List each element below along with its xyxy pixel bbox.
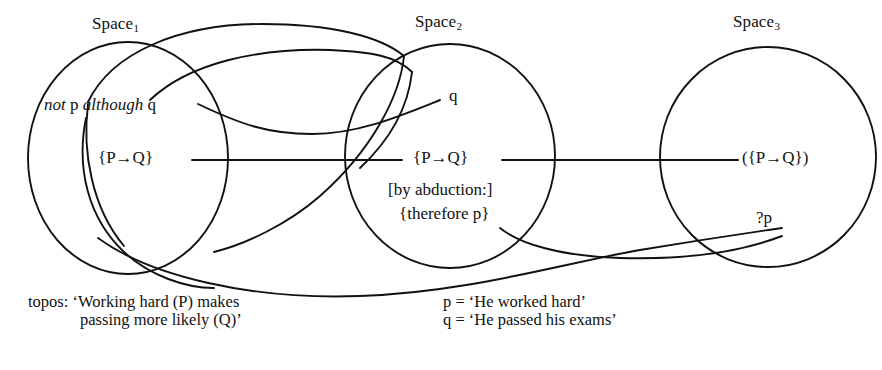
- link-abduction-to-space3: [500, 228, 782, 258]
- space2-label: Space2: [415, 12, 462, 31]
- legend-caption: p = ‘He worked hard’ q = ‘He passed his …: [443, 293, 617, 330]
- space2-q-node: q: [449, 86, 458, 105]
- space1-label: Space1: [92, 14, 139, 33]
- space1-utterance: not p although q: [44, 95, 156, 114]
- figure-canvas: Space1 Space2 Space3 not p although q {P…: [0, 0, 882, 370]
- topos-caption: topos: ‘Working hard (P) makes passing m…: [28, 293, 242, 330]
- connector-lens-left-side: [83, 118, 214, 288]
- space3-label: Space3: [733, 12, 780, 31]
- connector-outer-arc-descend: [214, 56, 404, 252]
- space1-topos-node: {P→Q}: [98, 148, 153, 167]
- connector-outer-arc-top: [88, 24, 404, 102]
- space3-topos-node: ({P→Q}): [742, 148, 808, 167]
- space2-abduction-line1: [by abduction:]: [388, 180, 492, 199]
- space2-topos-node: {P→Q}: [413, 148, 468, 167]
- connector-inner-arc-top: [150, 50, 412, 100]
- space2-abduction-line2: {therefore p}: [399, 204, 489, 223]
- space1-inner-boundary: [86, 104, 124, 246]
- space3-query-node: ?p: [756, 208, 772, 227]
